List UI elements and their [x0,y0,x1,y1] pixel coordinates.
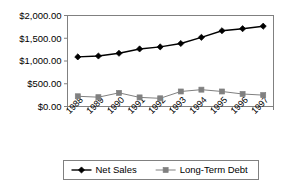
data-point-marker [220,89,225,94]
data-point-marker [178,89,183,94]
data-point-marker [158,96,163,101]
y-axis-tick-label: $1,000.00 [19,55,61,66]
data-point-marker [199,87,204,92]
data-point-marker [261,93,266,98]
chart-legend: Net SalesLong-Term Debt [64,161,259,180]
data-point-marker [163,168,168,173]
legend-label: Long-Term Debt [180,164,248,175]
data-point-marker [240,91,245,96]
y-axis-tick-label: $2,000.00 [19,10,61,21]
legend-label: Net Sales [96,164,137,175]
line-chart: $0.00$500.00$1,000.00$1,500.00$2,000.00 … [0,0,289,185]
y-axis-tick-label: $1,500.00 [19,33,61,44]
data-point-marker [137,95,142,100]
data-point-marker [117,90,122,95]
chart-container: $0.00$500.00$1,000.00$1,500.00$2,000.00 … [0,0,289,185]
data-point-marker [96,95,101,100]
y-axis-tick-label: $500.00 [27,78,61,89]
data-point-marker [75,94,80,99]
y-axis-tick-label: $0.00 [38,101,62,112]
y-axis-labels: $0.00$500.00$1,000.00$1,500.00$2,000.00 [19,10,61,112]
y-axis-ticks [64,16,68,107]
